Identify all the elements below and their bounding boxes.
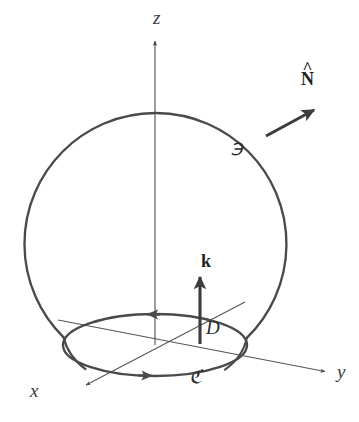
y-axis-line [58, 320, 325, 372]
normal-vector-glyph: ^ N [301, 70, 314, 88]
curve-label-C: ℭ [189, 367, 202, 386]
disk-label-D: D [206, 318, 220, 337]
normal-vector-arrow [266, 110, 314, 136]
normal-vector-label: ^ N [301, 70, 314, 88]
axis-label-x: x [30, 381, 38, 400]
hat-accent-icon: ^ [303, 59, 313, 76]
k-vector-label: k [201, 252, 211, 270]
figure-container: z x y ^ N k ℈ D ℭ [0, 0, 359, 422]
axis-label-y: y [337, 362, 345, 381]
axis-label-z: z [153, 8, 160, 27]
surface-label-S: ℈ [231, 139, 243, 156]
